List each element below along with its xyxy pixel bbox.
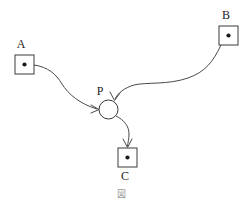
node-c-label: C [121,169,129,183]
node-c: C [118,148,137,183]
node-b-label: B [222,8,230,22]
node-b: B [219,8,238,45]
edge-a-to-p-arrowhead [91,105,99,113]
node-a-label: A [17,37,26,51]
edge-p-to-c [116,116,132,148]
edge-a-to-p-path [34,65,97,109]
figure-caption-glyph: 図 [117,189,126,199]
node-a: A [15,37,34,74]
node-p-label: P [97,84,104,98]
node-p-circle [99,100,118,119]
edge-b-to-p-path [115,45,221,99]
edge-b-to-p [110,45,221,101]
figure-canvas: A B P C 図 [0,0,251,215]
node-c-dot [125,155,129,159]
edge-p-to-c-path [116,116,129,146]
node-p: P [97,84,118,119]
diagram-svg: A B P C 図 [0,0,251,215]
edge-a-to-p [34,65,99,113]
node-a-dot [22,62,26,66]
node-b-dot [226,33,230,37]
